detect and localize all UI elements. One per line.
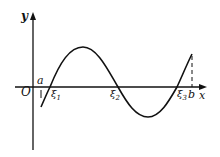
x-axis-label: x [199,89,206,102]
xi3-label: ξ3 [177,88,188,102]
function-curve [41,47,192,117]
origin-label: O [21,85,31,99]
function-graph: y x O a b ξ1 ξ2 ξ3 [0,0,220,157]
y-axis-label: y [20,9,29,23]
xi1-label: ξ1 [51,88,61,102]
y-axis-arrow-icon [30,12,36,20]
a-label: a [37,74,44,87]
b-label: b [188,88,195,101]
